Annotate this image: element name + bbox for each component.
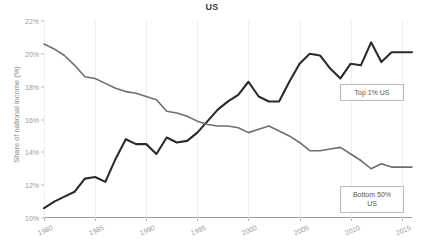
x-tick-label: 2000 (241, 224, 258, 236)
x-tick-mark (248, 218, 249, 221)
x-tick-label: 1995 (190, 224, 207, 236)
y-tick-label: 10% (25, 215, 39, 222)
x-tick-mark (146, 218, 147, 221)
y-tick-label: 12% (25, 182, 39, 189)
x-tick-label: 2010 (343, 224, 360, 236)
y-tick-label: 20% (25, 50, 39, 57)
chart-title: US (0, 2, 424, 12)
x-tick-label: 1990 (139, 224, 156, 236)
y-tick-label: 16% (25, 116, 39, 123)
x-tick-mark (197, 218, 198, 221)
y-axis-label: Share of national income (%) (12, 40, 21, 190)
legend-label-top-1-percent: Top 1% US (340, 84, 404, 101)
x-tick-mark (300, 218, 301, 221)
x-tick-mark (402, 218, 403, 221)
chart-root: US Share of national income (%) 10%12%14… (0, 0, 424, 247)
x-tick-label: 1985 (88, 224, 105, 236)
x-tick-mark (44, 218, 45, 221)
x-tick-label: 2015 (395, 224, 412, 236)
y-tick-label: 22% (25, 18, 39, 25)
y-tick-label: 18% (25, 83, 39, 90)
y-tick-label: 14% (25, 149, 39, 156)
x-tick-mark (95, 218, 96, 221)
series-line-top-1-us (44, 42, 412, 208)
legend-label-bottom-50-percent: Bottom 50% US (340, 186, 404, 213)
x-tick-label: 2005 (292, 224, 309, 236)
x-tick-mark (351, 218, 352, 221)
x-tick-label: 1980 (37, 224, 54, 236)
series-line-bottom-50-us (44, 44, 412, 169)
